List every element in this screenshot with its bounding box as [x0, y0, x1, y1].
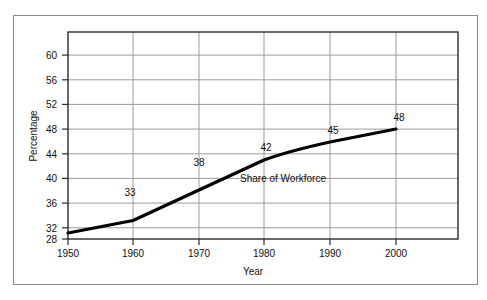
- y-tick-label-40: 40: [46, 173, 58, 184]
- x-tick-labels: 1950 1960 1970 1980 1990 2000: [57, 248, 408, 259]
- y-axis-ticks: [62, 55, 68, 239]
- plot-area-border: [68, 32, 458, 239]
- series-annotation-label: Share of Workforce: [240, 173, 326, 184]
- data-point-label-1990: 45: [327, 125, 339, 136]
- y-tick-label-44: 44: [46, 149, 58, 160]
- y-tick-label-52: 52: [46, 99, 58, 110]
- x-tick-label-1960: 1960: [122, 248, 145, 259]
- data-point-label-1980: 42: [260, 142, 272, 153]
- x-axis-ticks: [68, 239, 396, 245]
- data-point-label-1970: 38: [193, 157, 205, 168]
- y-tick-label-28: 28: [46, 234, 58, 245]
- y-tick-label-60: 60: [46, 50, 58, 61]
- data-point-label-1960: 33: [124, 187, 136, 198]
- x-tick-label-1950: 1950: [57, 248, 80, 259]
- y-axis-title: Percentage: [28, 110, 39, 162]
- data-series-line: [68, 129, 396, 233]
- y-tick-label-48: 48: [46, 124, 58, 135]
- y-tick-label-56: 56: [46, 75, 58, 86]
- x-axis-title: Year: [243, 266, 264, 277]
- data-point-label-2000: 48: [393, 112, 405, 123]
- line-chart: 60 56 52 48 44 40 36 32 28 1950 1960 197…: [0, 0, 487, 300]
- data-point-labels: 33 38 42 45 48: [124, 112, 405, 198]
- y-tick-label-36: 36: [46, 198, 58, 209]
- y-tick-label-32: 32: [46, 223, 58, 234]
- x-tick-label-1990: 1990: [319, 248, 342, 259]
- x-tick-label-1970: 1970: [188, 248, 211, 259]
- y-tick-labels: 60 56 52 48 44 40 36 32 28: [46, 50, 58, 245]
- x-tick-label-1980: 1980: [253, 248, 276, 259]
- x-tick-label-2000: 2000: [385, 248, 408, 259]
- chart-screenshot: 60 56 52 48 44 40 36 32 28 1950 1960 197…: [0, 0, 487, 300]
